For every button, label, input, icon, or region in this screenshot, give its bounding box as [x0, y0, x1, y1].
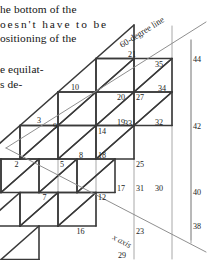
vertex-label-35: 35: [155, 60, 163, 69]
vertex-label-18: 18: [98, 151, 106, 160]
vertex-label-10: 10: [71, 83, 79, 92]
vertex-label-7: 7: [42, 193, 46, 202]
vertex-label-9: 9: [53, 122, 57, 131]
figure-page: he bottom of the oesn't have to be ositi…: [0, 0, 213, 260]
vertex-label-38: 38: [193, 222, 201, 231]
vertex-label-21: 21: [128, 50, 136, 59]
vertex-label-44: 44: [193, 55, 201, 64]
vertex-label-14: 14: [98, 127, 106, 136]
vertex-label-40: 40: [193, 188, 201, 197]
vertex-label-27: 27: [136, 93, 144, 102]
x-axis-label: x axis: [110, 231, 134, 250]
vertex-label-30: 30: [155, 184, 163, 193]
triangular-lattice-figure: 2357891012141617181920212325272930313233…: [0, 0, 213, 260]
vertex-label-2: 2: [14, 160, 18, 169]
vertex-label-16: 16: [76, 227, 84, 236]
vertex-label-5: 5: [60, 160, 64, 169]
vertex-label-20: 20: [117, 93, 125, 102]
vertex-label-25: 25: [136, 160, 144, 169]
vertex-label-42: 42: [193, 122, 201, 131]
vertex-label-29: 29: [118, 251, 126, 260]
vertex-label-23: 23: [136, 227, 144, 236]
vertex-label-34: 34: [158, 84, 166, 93]
vertex-label-33: 33: [124, 119, 132, 128]
vertex-label-3: 3: [37, 116, 41, 125]
vertex-label-8: 8: [79, 151, 83, 160]
vertex-label-32: 32: [155, 118, 163, 127]
vertex-label-17: 17: [117, 184, 125, 193]
vertex-label-12: 12: [98, 193, 106, 202]
vertex-label-31: 31: [136, 184, 144, 193]
